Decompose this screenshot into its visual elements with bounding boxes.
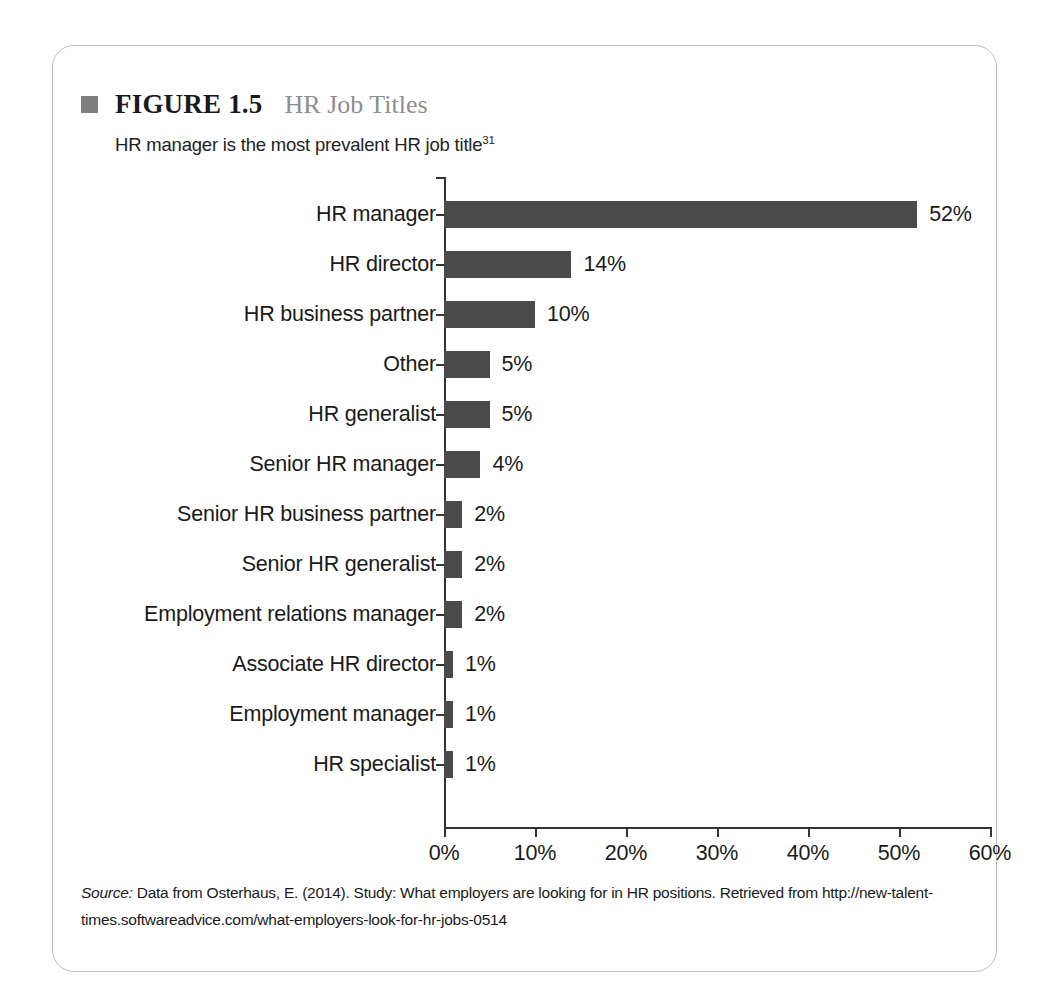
bar-row: HR specialist1% [53, 739, 998, 789]
x-axis-tick [990, 827, 992, 837]
bar [444, 451, 480, 478]
bar-value-label: 52% [929, 202, 971, 227]
bar-row: Employment manager1% [53, 689, 998, 739]
figure-subtitle-text: HR manager is the most prevalent HR job … [115, 134, 482, 155]
bar [444, 501, 462, 528]
bar-row: Other5% [53, 339, 998, 389]
bar-category-label: Senior HR business partner [36, 502, 436, 527]
x-axis-tick-label: 40% [787, 841, 829, 866]
bar-track: 1% [444, 739, 496, 789]
bar-track: 10% [444, 289, 589, 339]
bar [444, 601, 462, 628]
bar-row: Associate HR director1% [53, 639, 998, 689]
bar-row: Senior HR manager4% [53, 439, 998, 489]
source-note: Source: Data from Osterhaus, E. (2014). … [81, 879, 981, 933]
x-axis-tick-label: 10% [514, 841, 556, 866]
x-axis-tick-label: 60% [969, 841, 1011, 866]
bar-track: 5% [444, 339, 532, 389]
y-axis-tick [436, 564, 445, 566]
figure-number: FIGURE 1.5 [115, 89, 263, 120]
bar-track: 4% [444, 439, 523, 489]
bar-value-label: 5% [502, 402, 533, 427]
x-axis-tick-label: 50% [878, 841, 920, 866]
bar-row: HR business partner10% [53, 289, 998, 339]
bar-track: 1% [444, 639, 496, 689]
bar-category-label: Senior HR manager [36, 452, 436, 477]
x-axis-tick [535, 827, 537, 837]
bar [444, 301, 535, 328]
bar-category-label: HR generalist [36, 402, 436, 427]
source-label: Source: [81, 884, 133, 901]
bar [444, 351, 490, 378]
y-axis-tick [436, 264, 445, 266]
bar-value-label: 2% [474, 552, 505, 577]
x-axis-tick-label: 20% [605, 841, 647, 866]
bar-category-label: Associate HR director [36, 652, 436, 677]
bar-row: Employment relations manager2% [53, 589, 998, 639]
bar-category-label: Employment manager [36, 702, 436, 727]
y-axis-tick [436, 314, 445, 316]
bar-value-label: 14% [583, 252, 625, 277]
bar-category-label: HR manager [36, 202, 436, 227]
x-axis-tick-label: 0% [429, 841, 460, 866]
figure-title: HR Job Titles [285, 90, 428, 120]
y-axis-tick [436, 764, 445, 766]
y-axis-tick [436, 177, 445, 179]
bar-row: HR director14% [53, 239, 998, 289]
figure-card: FIGURE 1.5 HR Job Titles HR manager is t… [52, 45, 997, 972]
y-axis-tick [436, 714, 445, 716]
bar [444, 551, 462, 578]
bar-category-label: Employment relations manager [36, 602, 436, 627]
bar-category-label: HR specialist [36, 752, 436, 777]
bar-row: Senior HR generalist2% [53, 539, 998, 589]
x-axis-tick [899, 827, 901, 837]
figure-subtitle-footnote: 31 [482, 134, 494, 146]
bar-value-label: 1% [465, 752, 496, 777]
y-axis-tick [436, 464, 445, 466]
bar-track: 1% [444, 689, 496, 739]
bar-track: 5% [444, 389, 532, 439]
bar-track: 2% [444, 589, 505, 639]
bar-category-label: Other [36, 352, 436, 377]
y-axis-tick [436, 614, 445, 616]
bar-category-label: Senior HR generalist [36, 552, 436, 577]
x-axis-tick [444, 827, 446, 837]
bar [444, 401, 490, 428]
bar [444, 201, 917, 228]
y-axis-tick [436, 514, 445, 516]
bar-row: Senior HR business partner2% [53, 489, 998, 539]
y-axis-tick [436, 664, 445, 666]
bar-value-label: 10% [547, 302, 589, 327]
bar [444, 701, 453, 728]
x-axis-tick [626, 827, 628, 837]
bar-value-label: 2% [474, 502, 505, 527]
bar-value-label: 1% [465, 702, 496, 727]
bar-track: 2% [444, 489, 505, 539]
bar [444, 251, 571, 278]
bar-value-label: 4% [492, 452, 523, 477]
y-axis-tick [436, 414, 445, 416]
bar-row: HR manager52% [53, 189, 998, 239]
bar-category-label: HR director [36, 252, 436, 277]
bar-row: HR generalist5% [53, 389, 998, 439]
bar-chart: HR manager52%HR director14%HR business p… [53, 177, 998, 877]
x-axis-tick [808, 827, 810, 837]
figure-bullet-square-icon [81, 96, 98, 113]
bar-track: 52% [444, 189, 972, 239]
source-text: Data from Osterhaus, E. (2014). Study: W… [81, 884, 933, 928]
bar-value-label: 1% [465, 652, 496, 677]
figure-subtitle: HR manager is the most prevalent HR job … [115, 134, 495, 156]
bar [444, 651, 453, 678]
bar-value-label: 5% [502, 352, 533, 377]
y-axis-tick [436, 214, 445, 216]
bar-category-label: HR business partner [36, 302, 436, 327]
x-axis-tick-label: 30% [696, 841, 738, 866]
bar [444, 751, 453, 778]
bar-track: 2% [444, 539, 505, 589]
x-axis-tick [717, 827, 719, 837]
figure-header: FIGURE 1.5 HR Job Titles [81, 89, 428, 120]
y-axis-tick [436, 364, 445, 366]
bar-track: 14% [444, 239, 626, 289]
bar-value-label: 2% [474, 602, 505, 627]
